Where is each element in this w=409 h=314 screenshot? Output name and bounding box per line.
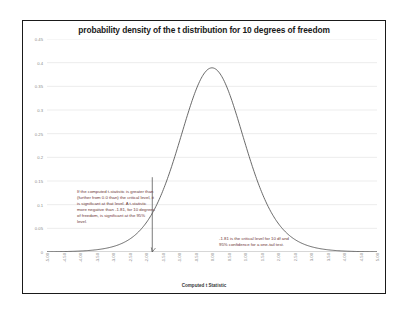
x-axis-title: Computed t Statistic: [23, 283, 385, 288]
x-axis-tick-label: 3.50: [325, 253, 330, 261]
x-axis-tick-label: -1.00: [177, 253, 182, 263]
x-axis-tick-label: -5.00: [45, 253, 50, 263]
x-axis-tick-label: -3.50: [94, 253, 99, 263]
annotation-critical-value: -1.81 is the critical level for 10 df an…: [219, 236, 289, 248]
y-axis-tick-label: 0.45: [35, 37, 43, 42]
y-axis: 0.450.40.350.30.250.20.150.10.050: [23, 39, 45, 252]
x-axis-tick-label: 5.00: [375, 253, 380, 261]
x-axis-tick-label: -4.00: [78, 253, 83, 263]
x-axis: -5.00-4.50-4.00-3.50-3.00-2.50-2.00-1.50…: [47, 253, 377, 283]
x-axis-tick-label: 2.00: [276, 253, 281, 261]
x-axis-tick-label: -3.00: [111, 253, 116, 263]
y-axis-tick-label: 0.25: [35, 131, 43, 136]
x-axis-tick-label: 3.00: [309, 253, 314, 261]
x-axis-tick-label: -0.50: [193, 253, 198, 263]
y-axis-tick-label: 0: [41, 250, 43, 255]
x-axis-tick-label: -2.50: [127, 253, 132, 263]
chart-frame: probability density of the t distributio…: [22, 20, 386, 294]
y-axis-tick-label: 0.35: [35, 84, 43, 89]
y-axis-tick-label: 0.15: [35, 179, 43, 184]
x-axis-tick-label: 1.00: [243, 253, 248, 261]
y-axis-tick-label: 0.05: [35, 226, 43, 231]
x-axis-tick-label: -4.50: [61, 253, 66, 263]
x-axis-tick-label: 0.50: [226, 253, 231, 261]
annotation-explanation: If the computed t-statistic is greater t…: [77, 189, 155, 226]
y-axis-tick-label: 0.2: [37, 155, 43, 160]
x-axis-tick-label: -1.50: [160, 253, 165, 263]
x-axis-tick-label: -2.00: [144, 253, 149, 263]
y-axis-tick-label: 0.4: [37, 60, 43, 65]
chart-title: probability density of the t distributio…: [23, 25, 385, 35]
x-axis-tick-label: 4.50: [358, 253, 363, 261]
y-axis-tick-label: 0.1: [37, 202, 43, 207]
x-axis-tick-label: 0.00: [210, 253, 215, 261]
x-axis-tick-label: 2.50: [292, 253, 297, 261]
x-axis-tick-label: 4.00: [342, 253, 347, 261]
y-axis-tick-label: 0.3: [37, 108, 43, 113]
x-axis-tick-label: 1.50: [259, 253, 264, 261]
